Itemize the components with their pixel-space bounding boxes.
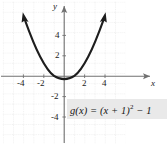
y-tick-label-neg4: -4 — [51, 113, 59, 122]
x-axis-label: x — [151, 79, 155, 88]
x-tick-label-2: 2 — [82, 79, 87, 88]
y-axis-label: y — [53, 2, 57, 11]
equation-rhs: − 1 — [134, 104, 152, 115]
x-tick-label-4: 4 — [102, 79, 107, 88]
y-tick-label-2: 2 — [55, 51, 60, 60]
x-tick-label-neg2: -2 — [37, 79, 45, 88]
equation-label-box: g(x) = (x + 1)2 − 1 — [67, 99, 167, 119]
graph-figure: -4 -2 2 4 4 2 -2 -4 y x g(x) = (x + 1)2 … — [0, 0, 167, 145]
y-tick-label-neg2: -2 — [51, 92, 59, 101]
x-tick-label-neg4: -4 — [17, 79, 25, 88]
equation-lhs: g(x) = (x + 1) — [70, 104, 130, 115]
equation-text: g(x) = (x + 1)2 − 1 — [70, 103, 152, 116]
coordinate-plane — [0, 0, 167, 145]
y-tick-label-4: 4 — [55, 31, 60, 40]
